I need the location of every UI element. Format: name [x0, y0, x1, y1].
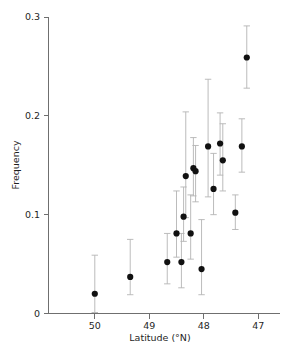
data-point-marker — [220, 157, 226, 163]
data-point-marker — [217, 140, 223, 146]
data-point-marker — [180, 214, 186, 220]
data-point-marker — [164, 259, 170, 265]
data-point-marker — [183, 173, 189, 179]
data-point-marker — [198, 266, 204, 272]
errorbar — [205, 79, 211, 197]
errorbar — [210, 153, 216, 214]
data-point-marker — [92, 291, 98, 297]
errorbar — [164, 233, 170, 283]
errorbars-layer — [92, 26, 250, 313]
chart-figure: 00.10.20.350494847 Latitude (°N) Frequen… — [0, 0, 286, 349]
data-point-marker — [205, 143, 211, 149]
y-tick-label: 0 — [34, 308, 40, 319]
errorbar — [173, 191, 179, 257]
y-tick-label: 0.2 — [25, 110, 40, 121]
y-tick-label: 0.1 — [25, 209, 40, 220]
y-axis-title: Frequency — [10, 140, 21, 189]
ticks-layer: 00.10.20.350494847 — [25, 11, 264, 331]
x-tick-label: 49 — [143, 320, 155, 331]
data-point-marker — [192, 168, 198, 174]
x-tick-label: 50 — [89, 320, 101, 331]
y-tick-label: 0.3 — [25, 11, 40, 22]
data-point-marker — [239, 143, 245, 149]
data-point-marker — [178, 259, 184, 265]
errorbar — [187, 195, 193, 259]
x-tick-label: 48 — [198, 320, 210, 331]
errorbar — [198, 220, 204, 295]
data-point-marker — [244, 54, 250, 60]
data-point-marker — [173, 230, 179, 236]
x-tick-label: 47 — [252, 320, 264, 331]
markers-layer — [92, 54, 250, 296]
scatter-plot-svg: 00.10.20.350494847 Latitude (°N) Frequen… — [0, 0, 286, 349]
data-point-marker — [210, 186, 216, 192]
errorbar — [92, 255, 98, 312]
axes-layer — [49, 17, 281, 314]
data-point-marker — [232, 210, 238, 216]
data-point-marker — [188, 230, 194, 236]
errorbar — [127, 239, 133, 294]
x-axis-title: Latitude (°N) — [129, 332, 190, 343]
data-point-marker — [127, 274, 133, 280]
